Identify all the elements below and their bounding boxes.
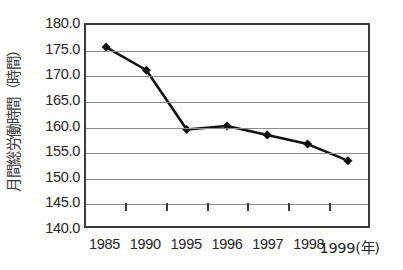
gridline xyxy=(86,179,368,180)
data-point-marker xyxy=(343,156,352,165)
gridline xyxy=(86,153,368,154)
gridline xyxy=(86,128,368,129)
y-tick-label: 180.0 xyxy=(45,15,80,31)
x-axis-tick xyxy=(207,203,209,211)
x-axis-tick xyxy=(166,203,168,211)
y-tick-label: 160.0 xyxy=(45,118,80,134)
x-axis-tick xyxy=(125,203,127,211)
x-axis-tick-labels: 1985199019951996199719981999(年) xyxy=(84,236,370,260)
y-tick-label: 140.0 xyxy=(45,220,80,236)
y-tick-label: 165.0 xyxy=(45,92,80,108)
data-point-marker xyxy=(303,140,312,149)
y-axis-title: 月間総労働時間（時間） xyxy=(0,0,24,235)
gridline xyxy=(86,204,368,205)
x-axis-tick xyxy=(329,203,331,211)
chart-figure: 月間総労働時間（時間） 180.0175.0170.0165.0160.0155… xyxy=(0,0,403,270)
gridline xyxy=(86,76,368,77)
x-tick-label: 1995 xyxy=(171,236,202,252)
gridline xyxy=(86,102,368,103)
x-tick-label: 1996 xyxy=(211,236,242,252)
x-axis-tick xyxy=(288,203,290,211)
y-tick-label: 145.0 xyxy=(45,194,80,210)
x-tick-label: 1990 xyxy=(130,236,161,252)
data-point-marker xyxy=(222,121,231,130)
gridline xyxy=(86,51,368,52)
plot-area xyxy=(84,23,370,228)
y-tick-label: 155.0 xyxy=(45,143,80,159)
x-tick-label: 1997 xyxy=(252,236,283,252)
data-point-marker xyxy=(263,131,272,140)
y-tick-label: 175.0 xyxy=(45,41,80,57)
y-axis-title-text: 月間総労働時間（時間） xyxy=(2,43,23,192)
series-line-chart xyxy=(86,25,368,226)
y-tick-label: 150.0 xyxy=(45,169,80,185)
y-tick-label: 170.0 xyxy=(45,66,80,82)
x-tick-label: 1999(年) xyxy=(320,236,380,257)
y-axis-tick-labels: 180.0175.0170.0165.0160.0155.0150.0145.0… xyxy=(24,23,82,228)
x-axis-tick xyxy=(247,203,249,211)
x-tick-label: 1985 xyxy=(89,236,120,252)
